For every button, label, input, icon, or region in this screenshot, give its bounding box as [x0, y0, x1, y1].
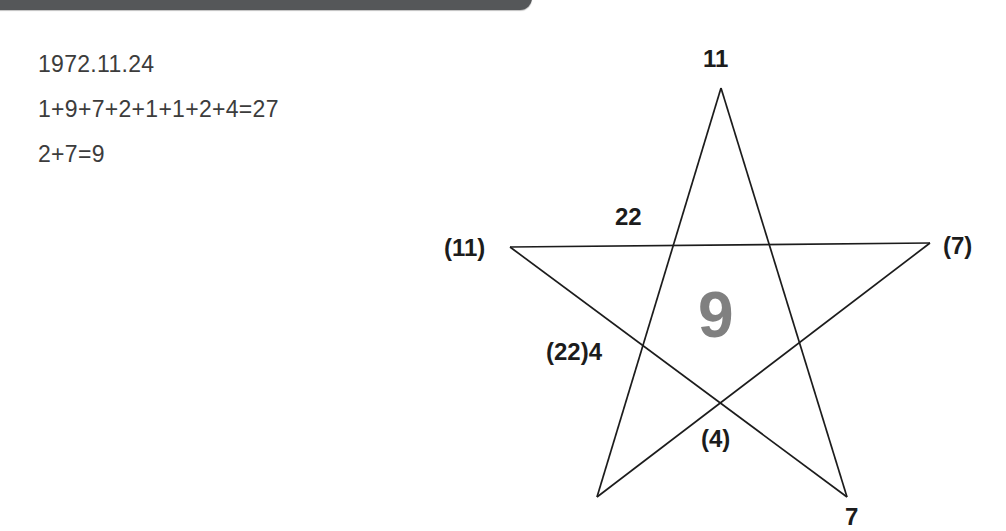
- note-line-date: 1972.11.24: [38, 42, 438, 87]
- star-label-bottom-middle: (4): [701, 425, 730, 453]
- star-label-bottom-right: 7: [845, 503, 858, 531]
- notes-block: 1972.11.24 1+9+7+2+1+1+2+4=27 2+7=9: [38, 42, 438, 177]
- star-center-value: 9: [698, 283, 734, 347]
- star-label-lower-left: (22)4: [546, 338, 602, 366]
- star-edge-left-right: [510, 243, 930, 247]
- star-label-left: (11): [444, 234, 485, 262]
- star-edge-bottomright-left: [510, 247, 847, 497]
- star-label-upper-middle: 22: [615, 203, 642, 231]
- star-label-right: (7): [943, 232, 972, 260]
- pentagram-figure: 11 (11) (7) 22 (22)4 (4) 7 9: [430, 0, 1006, 531]
- star-edge-top-bottomright: [721, 88, 847, 497]
- note-line-digit-sum: 1+9+7+2+1+1+2+4=27: [38, 87, 438, 132]
- note-line-reduction: 2+7=9: [38, 132, 438, 177]
- star-label-top: 11: [703, 45, 728, 73]
- star-edge-right-bottomleft: [597, 243, 930, 497]
